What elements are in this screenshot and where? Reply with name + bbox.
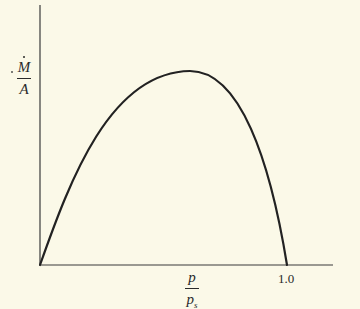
x-label-denominator: ps — [186, 292, 197, 309]
flux-curve — [40, 71, 287, 265]
stray-mark — [11, 71, 13, 73]
x-label-numerator: p — [188, 270, 196, 285]
x-axis-label: p ps — [180, 270, 204, 309]
y-axis-label: M A — [14, 60, 34, 97]
y-label-numerator: M — [18, 60, 31, 75]
fraction-bar — [17, 78, 31, 79]
x-tick-label: 1.0 — [278, 271, 294, 287]
fraction-bar — [185, 288, 199, 289]
y-label-denominator: A — [19, 82, 28, 97]
plot-area — [0, 0, 360, 309]
